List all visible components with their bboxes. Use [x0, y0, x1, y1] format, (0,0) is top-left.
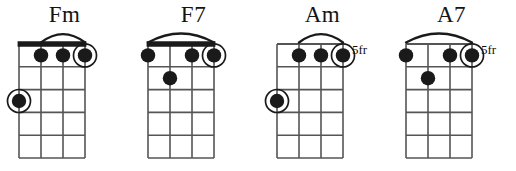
finger-dot: [421, 71, 435, 85]
barre-arc: [41, 34, 85, 42]
root-finger-dot: [336, 48, 350, 62]
fretboard-grid: [0, 0, 129, 171]
fret-position-label: 5fr: [481, 43, 496, 56]
root-finger-dot: [12, 94, 26, 108]
root-finger-dot: [207, 48, 221, 62]
finger-dot: [292, 48, 306, 62]
chord-diagram: F7: [129, 0, 258, 171]
finger-dot: [185, 48, 199, 62]
root-finger-dot: [465, 48, 479, 62]
fretboard-grid: [387, 0, 516, 171]
chord-diagram: Fm: [0, 0, 129, 171]
chord-diagram: A75fr: [387, 0, 516, 171]
root-finger-dot: [78, 48, 92, 62]
chord-diagram: Am5fr: [258, 0, 387, 171]
finger-dot: [141, 48, 155, 62]
chord-chart-board: FmF7Am5frA75fr: [0, 0, 516, 171]
finger-dot: [443, 48, 457, 62]
fretboard-grid: [258, 0, 387, 171]
fret-position-label: 5fr: [352, 43, 367, 56]
finger-dot: [56, 48, 70, 62]
finger-dot: [314, 48, 328, 62]
root-finger-dot: [270, 94, 284, 108]
finger-dot: [399, 48, 413, 62]
barre-arc: [299, 34, 343, 42]
finger-dot: [163, 71, 177, 85]
barre-arc: [406, 34, 472, 43]
barre-arc: [148, 34, 214, 43]
finger-dot: [34, 48, 48, 62]
fretboard-grid: [129, 0, 258, 171]
